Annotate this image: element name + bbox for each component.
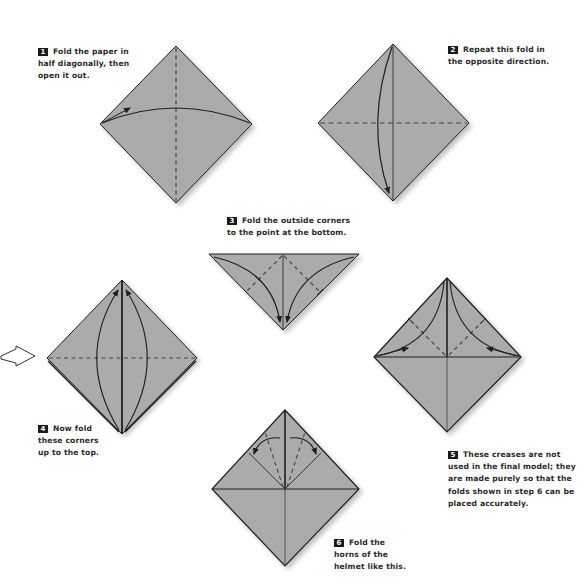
paper-triangle	[209, 254, 359, 330]
step-number-badge: 1	[38, 48, 48, 56]
step-6-caption: 6Fold the horns of the helmet like this.	[334, 537, 406, 574]
step-number-badge: 2	[448, 46, 458, 54]
step-1-caption: 1Fold the paper in half diagonally, then…	[38, 46, 129, 83]
step-3-diagram	[209, 254, 359, 330]
step-number-badge: 4	[38, 425, 48, 433]
step-4-diagram	[47, 280, 197, 434]
step-number-badge: 3	[227, 217, 237, 225]
outline-arrow-right-icon	[1, 346, 35, 366]
step-number-badge: 6	[334, 539, 344, 547]
step-2-diagram	[318, 44, 469, 201]
step-2-caption: 2Repeat this fold in the opposite direct…	[448, 44, 549, 68]
step-5-diagram	[374, 278, 521, 432]
step-3-caption: 3Fold the outside corners to the point a…	[227, 215, 350, 239]
step-5-caption: 5These creases are not used in the final…	[448, 449, 576, 510]
step-4-caption: 4Now fold these corners up to the top.	[38, 423, 99, 460]
step-number-badge: 5	[448, 451, 458, 459]
